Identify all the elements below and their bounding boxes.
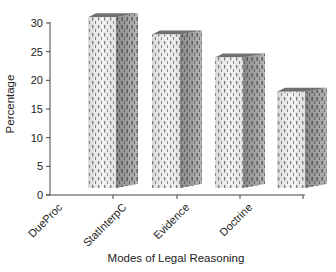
x-tick-label: Evidence (151, 201, 191, 241)
bar-dueproc (88, 13, 138, 188)
x-ticks: DueProcStatInterpCEvidenceDoctrine (26, 195, 303, 249)
y-axis-title: Percentage (4, 75, 16, 134)
y-tick-label: 5 (37, 160, 43, 172)
bar-doctrine (277, 88, 327, 188)
y-tick-label: 30 (31, 17, 43, 29)
x-tick-label: Doctrine (217, 201, 254, 238)
y-tick-label: 20 (31, 74, 43, 86)
y-tick-label: 25 (31, 46, 43, 58)
y-ticks: 051015202530 (31, 17, 50, 201)
bar-chart: 051015202530 DueProcStatInterpCEvidenceD… (0, 0, 336, 272)
y-tick-label: 0 (37, 189, 43, 201)
x-tick-label: DueProc (26, 201, 65, 240)
bars (88, 13, 327, 188)
x-tick-label: StatInterpC (81, 201, 129, 249)
bar-statinterpc (152, 30, 202, 188)
y-tick-label: 10 (31, 132, 43, 144)
x-axis-title: Modes of Legal Reasoning (108, 252, 245, 264)
bar-evidence (215, 53, 265, 188)
y-tick-label: 15 (31, 103, 43, 115)
